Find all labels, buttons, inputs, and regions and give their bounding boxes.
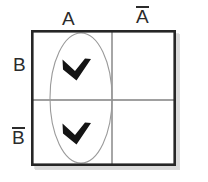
diagram-canvas: A A B B: [0, 0, 208, 182]
overbar-a: [136, 6, 149, 8]
row-header-b-bar: B: [12, 127, 25, 147]
column-header-a: A: [62, 8, 75, 28]
map-interior: [31, 30, 176, 166]
row-header-b: B: [13, 54, 26, 74]
karnaugh-map-graphic: [0, 0, 208, 182]
overbar-b: [12, 127, 25, 129]
column-header-a-bar: A: [136, 6, 149, 26]
